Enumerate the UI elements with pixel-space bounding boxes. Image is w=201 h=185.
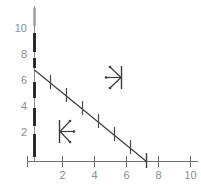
arrow-barb-dot bbox=[109, 66, 112, 69]
constraint-line-group bbox=[35, 70, 147, 168]
arrow-barb-lower bbox=[60, 132, 70, 143]
x-tick-label: 4 bbox=[91, 169, 97, 181]
arrow-barb-dot bbox=[69, 120, 72, 123]
plot-canvas: 10 8 6 4 2 2 4 6 8 10 bbox=[0, 0, 201, 185]
y-tick-label: 6 bbox=[21, 74, 27, 86]
arrow-tail-dot bbox=[73, 130, 76, 133]
x-axis bbox=[27, 156, 198, 167]
direction-arrow-left-icon bbox=[60, 120, 76, 144]
y-axis-tick-labels: 10 8 6 4 2 bbox=[15, 22, 27, 138]
y-tick-label: 4 bbox=[21, 100, 27, 112]
y-tick-label: 8 bbox=[21, 48, 27, 60]
x-tick-label: 8 bbox=[155, 169, 161, 181]
arrow-barb-upper bbox=[110, 67, 121, 78]
y-tick-label: 10 bbox=[15, 22, 27, 34]
arrow-barb-dot bbox=[69, 141, 72, 144]
arrow-tail-dot bbox=[105, 76, 108, 79]
arrow-barb-dot bbox=[109, 87, 112, 90]
constraint-line bbox=[35, 70, 147, 162]
x-tick-label: 2 bbox=[59, 169, 65, 181]
x-axis-tick-labels: 2 4 6 8 10 bbox=[59, 169, 196, 181]
line-graph-figure: 10 8 6 4 2 2 4 6 8 10 bbox=[0, 0, 201, 185]
arrow-barb-lower bbox=[110, 78, 121, 89]
arrow-barb-upper bbox=[60, 121, 70, 132]
x-tick-label: 6 bbox=[123, 169, 129, 181]
direction-arrow-right-icon bbox=[105, 66, 122, 90]
y-tick-label: 2 bbox=[21, 126, 27, 138]
x-tick-label: 10 bbox=[184, 169, 196, 181]
constraint-hatch-marks bbox=[51, 75, 147, 168]
